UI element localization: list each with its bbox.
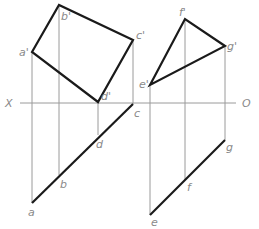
axis-label-o: O [242,97,251,110]
label-e-prime: e' [139,78,149,91]
label-c-prime: c' [136,29,145,42]
triangle-front-view [150,19,225,85]
quadrilateral-top-view-edge [32,104,133,203]
label-c: c [134,107,140,120]
label-b-prime: b' [61,10,71,23]
label-d: d [96,138,104,151]
label-f-prime: f' [179,6,186,19]
axis-label-x: X [4,97,13,110]
triangle-top-view-edge [150,140,225,215]
quadrilateral-front-view [32,5,133,102]
label-f: f [187,181,193,194]
label-g-prime: g' [227,40,237,53]
label-b: b [60,178,67,191]
label-a-prime: a' [19,46,29,59]
label-e: e [151,216,158,229]
label-a: a [28,206,35,219]
orthographic-projection-diagram: X O a' b' c' d' a b d c e' f' g' e f g [0,0,259,229]
label-d-prime: d' [101,90,111,103]
label-g: g [226,141,233,154]
